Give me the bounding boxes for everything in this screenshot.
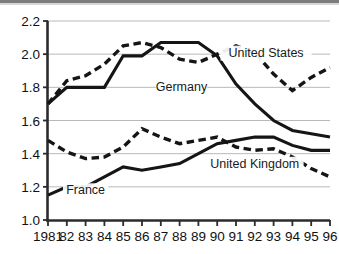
x-axis-tick-label: 86	[134, 229, 149, 244]
x-axis-tick-label: 87	[153, 229, 168, 244]
y-axis-tick-label: 1.0	[21, 213, 40, 228]
x-axis-tick-label: 84	[97, 229, 113, 244]
y-axis-tick-label: 1.2	[21, 180, 40, 195]
x-axis-tick-label: 83	[78, 229, 93, 244]
x-axis-tick-label: 93	[266, 229, 281, 244]
x-axis-tick-label: 92	[247, 229, 262, 244]
data-series-lines	[48, 43, 330, 196]
y-axis-tick-label: 2.2	[21, 14, 40, 29]
x-axis-tick-label: 88	[172, 229, 187, 244]
x-axis-tick-label: 90	[210, 229, 225, 244]
y-axis-tick-label: 1.4	[21, 147, 40, 162]
x-axis-tick-label: 89	[191, 229, 206, 244]
line-chart: 1.01.21.41.61.82.02.2 198182838485868788…	[0, 0, 339, 254]
x-axis-tick-label: 94	[285, 229, 301, 244]
x-axis-tick-label: 85	[116, 229, 131, 244]
x-axis-tick-label: 95	[304, 229, 319, 244]
y-axis-tick-label: 1.6	[21, 114, 40, 129]
y-axis-tick-label: 1.8	[21, 80, 40, 95]
x-axis-tick-label: 91	[228, 229, 243, 244]
series-label-france: France	[66, 183, 105, 197]
chart-screenshot: 1.01.21.41.61.82.02.2 198182838485868788…	[0, 0, 339, 254]
x-axis-tick-labels: 1981828384858687888990919293949596	[33, 229, 338, 244]
x-axis-tick-label: 96	[322, 229, 337, 244]
x-axis-tick-label: 82	[59, 229, 74, 244]
y-axis-tick-label: 2.0	[21, 47, 40, 62]
series-label-germany: Germany	[156, 80, 208, 94]
series-label-united-kingdom: United Kingdom	[210, 157, 299, 171]
y-axis-tick-labels: 1.01.21.41.61.82.02.2	[21, 14, 40, 228]
series-label-united-states: United States	[229, 46, 304, 60]
